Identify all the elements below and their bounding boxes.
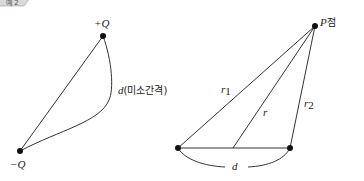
r1-line — [178, 26, 315, 148]
right-charge-dot — [287, 145, 293, 151]
r1-label-sub: 1 — [225, 85, 231, 97]
point-p-dot — [312, 23, 318, 29]
d-arc-left — [178, 148, 225, 167]
left-charge-dot — [175, 145, 181, 151]
d-arc-right — [248, 148, 290, 167]
distance-arc — [20, 36, 112, 151]
r-label: r — [263, 106, 268, 118]
charge-connecting-line — [20, 36, 103, 151]
positive-charge-dot — [100, 33, 106, 39]
positive-charge-label: +Q — [94, 17, 109, 29]
dipole-diagram: 예 2 +Q −Q d(미소간격) P점 — [0, 0, 364, 181]
corner-tag: 예 2 — [0, 0, 30, 7]
point-p-text: 점 — [327, 17, 336, 28]
distance-label-text: (미소간격) — [124, 84, 168, 96]
corner-tag-text: 예 2 — [6, 0, 19, 7]
point-p-label: P점 — [319, 16, 336, 28]
r2-label-sub: 2 — [308, 99, 314, 111]
negative-charge-dot — [17, 148, 23, 154]
d-label: d — [232, 160, 238, 172]
r2-label: r2 — [304, 97, 314, 111]
r1-label: r1 — [221, 83, 231, 97]
distance-label: d(미소간격) — [118, 84, 167, 96]
left-dipole-diagram: +Q −Q d(미소간격) — [10, 17, 167, 170]
right-field-point-diagram: P점 r1 r r2 d — [175, 16, 336, 172]
negative-charge-label: −Q — [10, 158, 25, 170]
